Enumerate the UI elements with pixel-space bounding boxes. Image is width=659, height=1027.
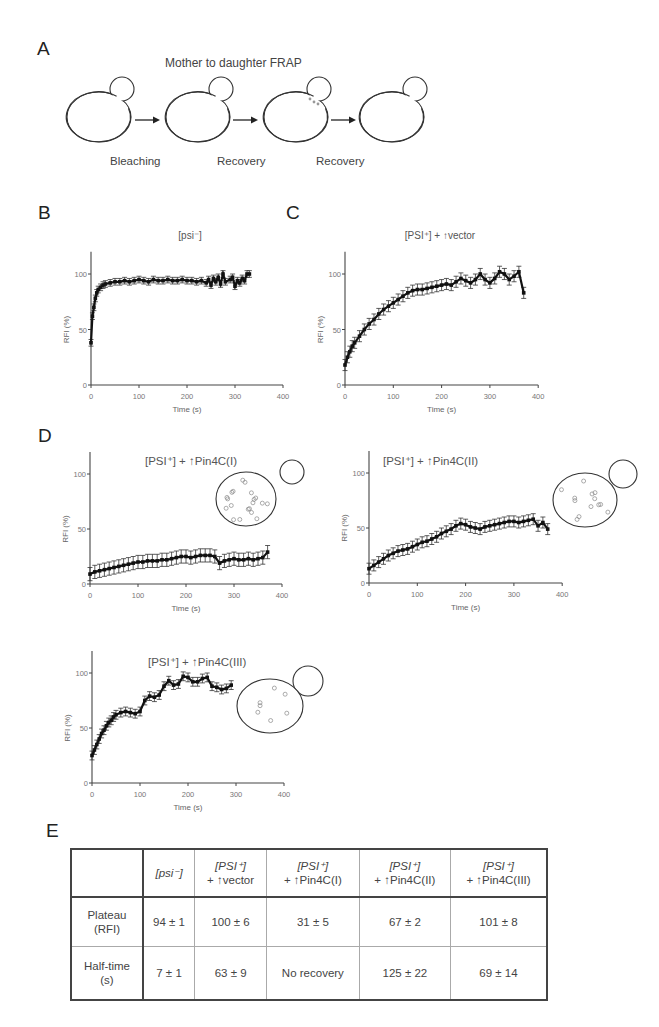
x-tick-label: 100 <box>411 590 424 599</box>
chart-b: 0100200300400050100Time (s)RFI (%)[psi⁻] <box>62 230 289 414</box>
x-tick-label: 400 <box>276 591 289 600</box>
data-line <box>369 519 548 569</box>
mother-outline <box>216 472 276 526</box>
summary-table: [psi⁻] [PSI⁺]+ ↑vector [PSI⁺]+ ↑Pin4C(I)… <box>70 848 548 1001</box>
data-point <box>184 555 188 559</box>
data-point <box>220 688 224 692</box>
data-point <box>406 291 410 295</box>
data-point <box>387 304 391 308</box>
data-point <box>128 280 132 284</box>
y-axis-label: RFI (%) <box>316 315 325 343</box>
y-tick-label: 50 <box>333 326 341 335</box>
y-axis-label: RFI (%) <box>63 714 72 742</box>
x-tick-label: 300 <box>228 591 241 600</box>
data-point <box>411 289 415 293</box>
data-point <box>186 676 190 680</box>
x-tick-label: 200 <box>180 591 193 600</box>
data-point <box>138 710 142 714</box>
data-point <box>142 279 146 283</box>
yeast-cell-icon <box>263 77 331 142</box>
table-cell: 100 ± 6 <box>195 897 267 947</box>
data-point <box>238 281 242 285</box>
table-cell: 63 ± 9 <box>195 947 267 1001</box>
data-point <box>392 301 396 305</box>
data-point <box>181 675 185 679</box>
data-point <box>113 280 117 284</box>
arrow-right-icon <box>233 117 258 124</box>
data-point <box>425 287 429 291</box>
data-point <box>488 281 492 285</box>
x-tick-label: 300 <box>508 590 521 599</box>
data-point <box>105 724 109 728</box>
data-point <box>440 532 444 536</box>
x-tick-label: 200 <box>182 790 195 799</box>
x-tick-label: 0 <box>88 591 92 600</box>
data-point <box>224 280 228 284</box>
data-point <box>194 555 198 559</box>
x-tick-label: 100 <box>387 392 400 401</box>
data-point <box>160 558 164 562</box>
bleach-dot <box>317 103 320 106</box>
data-point <box>377 312 381 316</box>
data-point <box>401 548 405 552</box>
chart-title: [psi⁻] <box>178 230 202 241</box>
data-point <box>266 550 270 554</box>
data-point <box>151 559 155 563</box>
data-point <box>353 341 357 345</box>
data-point <box>161 279 165 283</box>
data-point <box>348 350 352 354</box>
data-point <box>247 557 251 561</box>
table-cell: 31 ± 5 <box>267 897 360 947</box>
data-point <box>109 719 113 723</box>
data-point <box>444 530 448 534</box>
data-point <box>127 562 131 566</box>
data-point <box>248 272 252 276</box>
data-point <box>435 284 439 288</box>
data-point <box>155 559 159 563</box>
data-point <box>454 280 458 284</box>
y-tick-label: 100 <box>75 669 88 678</box>
table-cell: 69 ± 14 <box>451 947 547 1001</box>
yeast-cell-inset-d1 <box>216 460 304 526</box>
table-header-cell: [PSI⁺]+ ↑vector <box>195 849 267 897</box>
y-axis-label: RFI (%) <box>61 515 70 543</box>
data-point <box>100 732 104 736</box>
table-header-cell: [PSI⁺]+ ↑Pin4C(II) <box>359 849 450 897</box>
data-point <box>146 559 150 563</box>
x-tick-label: 400 <box>556 590 569 599</box>
data-point <box>512 274 516 278</box>
data-point <box>152 278 156 282</box>
x-tick-label: 0 <box>90 790 94 799</box>
data-point <box>343 363 347 367</box>
data-point <box>227 558 231 562</box>
data-point <box>94 297 98 301</box>
x-tick-label: 200 <box>435 392 448 401</box>
mother-outline <box>237 679 303 733</box>
table-cell: No recovery <box>267 947 360 1001</box>
y-tick-label: 100 <box>352 469 365 478</box>
data-point <box>377 560 381 564</box>
data-point <box>493 277 497 281</box>
data-point <box>464 523 468 527</box>
chart-title: [PSI⁺] + ↑Pin4C(I) <box>145 455 237 467</box>
data-point <box>223 559 227 563</box>
data-point <box>205 676 209 680</box>
yeast-cell-icon <box>165 77 233 142</box>
x-axis-label: Time (s) <box>173 803 202 812</box>
data-point <box>114 713 118 717</box>
yeast-cell-icon <box>359 77 427 142</box>
x-tick-label: 200 <box>181 392 194 401</box>
data-point <box>488 524 492 528</box>
data-point <box>167 679 171 683</box>
data-point <box>200 279 204 283</box>
data-point <box>95 743 99 747</box>
chart-title: [PSI⁺] + ↑vector <box>405 230 476 241</box>
data-point <box>225 687 229 691</box>
data-point <box>420 541 424 545</box>
data-point <box>498 270 502 274</box>
data-point <box>382 557 386 561</box>
data-point <box>459 277 463 281</box>
data-point <box>112 566 116 570</box>
data-point <box>507 520 511 524</box>
data-point <box>536 524 540 528</box>
